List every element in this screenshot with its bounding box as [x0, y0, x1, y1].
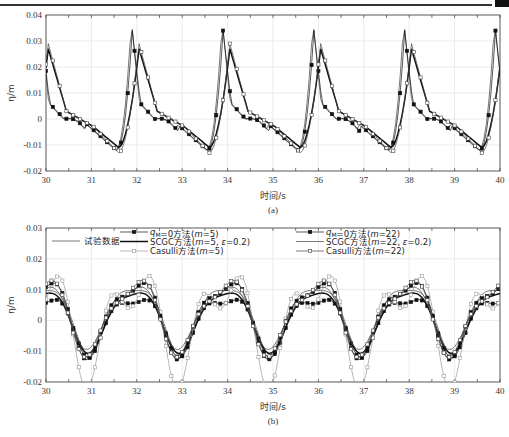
x-tick-label: 31: [87, 175, 96, 185]
x-tick-label: 30: [42, 386, 52, 396]
legend: 试验数据qM=0方法(m=5)SCGC方法(m=5, ε=0.2)Casulli…: [52, 227, 431, 256]
x-tick-label: 35: [269, 175, 279, 185]
y-tick-label: 0.03: [26, 36, 42, 46]
x-axis-label: 时间/s: [260, 190, 286, 201]
y-tick-label: 0.01: [26, 88, 42, 98]
x-tick-label: 32: [132, 386, 141, 396]
legend-label: SCGC方法(m=22, ε=0.2): [326, 237, 431, 247]
x-tick-label: 40: [496, 175, 506, 185]
y-tick-label: 0: [38, 315, 43, 325]
y-tick-label: 0.04: [26, 10, 42, 20]
figure: 3031323334353637383940-0.02-0.0100.010.0…: [0, 0, 509, 437]
x-tick-label: 38: [405, 386, 415, 396]
series-q_M=0方法(m=5): [44, 29, 500, 152]
x-tick-label: 35: [269, 386, 279, 396]
x-tick-label: 33: [178, 386, 188, 396]
y-tick-label: 0: [38, 114, 43, 124]
x-tick-label: 32: [132, 175, 141, 185]
legend-label: 试验数据: [84, 236, 120, 246]
y-tick-label: -0.01: [23, 140, 42, 150]
x-tick-label: 31: [87, 386, 96, 396]
x-axis-label: 时间/s: [260, 401, 286, 412]
y-tick-label: 0.01: [26, 285, 42, 295]
y-tick-label: 0.03: [26, 223, 42, 233]
x-tick-label: 39: [450, 175, 460, 185]
x-tick-label: 36: [314, 386, 324, 396]
chart-a: 3031323334353637383940-0.02-0.0100.010.0…: [6, 10, 505, 215]
y-axis-label: η/m: [6, 84, 16, 102]
y-tick-label: 0.02: [26, 62, 42, 72]
x-tick-label: 38: [405, 175, 415, 185]
caption: (b): [268, 416, 279, 426]
y-tick-label: -0.01: [23, 346, 42, 356]
series-Casulli方法(m=5): [44, 274, 500, 391]
y-tick-label: -0.02: [23, 377, 42, 387]
x-tick-label: 37: [359, 175, 369, 185]
x-tick-label: 39: [450, 386, 460, 396]
legend-label: Casulli方法(m=22): [326, 246, 405, 256]
legend-label: Casulli方法(m=5): [150, 246, 224, 256]
series-Casulli方法(m=22): [44, 279, 500, 359]
legend-label: SCGC方法(m=5, ε=0.2): [150, 237, 250, 247]
x-tick-label: 34: [223, 175, 233, 185]
x-tick-label: 36: [314, 175, 324, 185]
y-tick-label: -0.02: [23, 166, 42, 176]
x-tick-label: 33: [178, 175, 188, 185]
caption: (a): [268, 205, 278, 215]
y-tick-label: 0.02: [26, 254, 42, 264]
x-tick-label: 37: [359, 386, 369, 396]
y-axis-label: η/m: [6, 296, 16, 314]
x-tick-label: 34: [223, 386, 233, 396]
x-tick-label: 40: [496, 386, 506, 396]
chart-b: 3031323334353637383940-0.02-0.0100.010.0…: [6, 223, 505, 426]
series-Casulli方法(m=5): [44, 42, 500, 154]
x-tick-label: 30: [42, 175, 52, 185]
